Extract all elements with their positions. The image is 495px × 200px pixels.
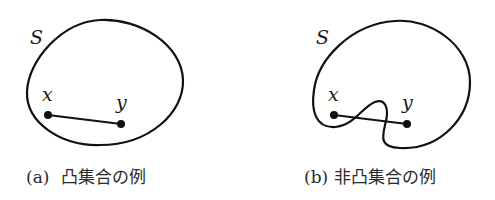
caption-b-text: 非凸集合の例: [334, 167, 436, 187]
point-x: [44, 111, 52, 119]
set-label-s: S: [316, 26, 329, 48]
caption-a-text: 凸集合の例: [61, 167, 146, 187]
caption-a: (a)凸集合の例: [26, 163, 146, 188]
point-label-y: y: [401, 91, 413, 113]
point-label-y: y: [115, 91, 127, 113]
segment-xy: [48, 115, 121, 124]
caption-b: (b)非凸集合の例: [304, 163, 436, 188]
panel-b-nonconvex: S x y: [313, 21, 470, 148]
point-y: [117, 120, 125, 128]
point-x: [330, 111, 338, 119]
point-label-x: x: [328, 83, 339, 105]
caption-a-tag: (a): [26, 167, 49, 187]
panel-a-convex: S x y: [27, 20, 183, 145]
point-label-x: x: [42, 83, 53, 105]
segment-xy: [334, 115, 407, 124]
caption-b-tag: (b): [304, 167, 328, 187]
point-y: [403, 120, 411, 128]
set-label-s: S: [30, 26, 43, 48]
